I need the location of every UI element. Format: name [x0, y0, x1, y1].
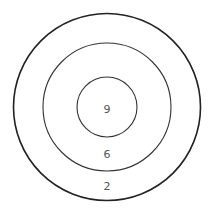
concentric-circles-diagram: 9 6 2 — [0, 0, 208, 209]
inner-label: 9 — [104, 103, 111, 116]
outer-label: 2 — [104, 180, 111, 193]
middle-label: 6 — [104, 148, 111, 161]
